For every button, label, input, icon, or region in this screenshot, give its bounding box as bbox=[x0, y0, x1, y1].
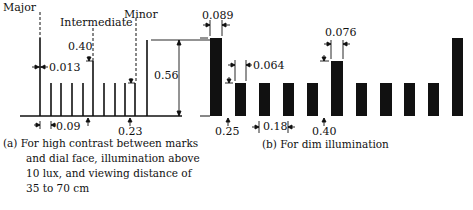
dim-minor-width-b: 0.064 bbox=[253, 60, 285, 72]
dim-minor-spacing-b: 0.18 bbox=[263, 121, 288, 133]
label-intermediate: Intermediate bbox=[60, 17, 133, 29]
dim-major-height-a: 0.56 bbox=[154, 70, 179, 82]
label-minor: Minor bbox=[124, 9, 158, 21]
dim-major-width-b: 0.089 bbox=[202, 10, 234, 22]
dim-minor-spacing-a: 0.09 bbox=[56, 121, 81, 133]
dim-intermediate-width-b: 0.076 bbox=[325, 27, 357, 39]
dim-minor-height-b: 0.25 bbox=[215, 126, 240, 138]
dim-intermediate-height-a: 0.40 bbox=[68, 41, 93, 53]
major-bar bbox=[210, 38, 222, 116]
intermediate-bar bbox=[331, 61, 343, 116]
caption-a: (a) For high contrast between marks and … bbox=[3, 136, 200, 196]
panel-b-bars bbox=[200, 38, 463, 116]
major-bar-2 bbox=[452, 38, 463, 116]
dim-mark-width-a: 0.013 bbox=[49, 62, 81, 74]
caption-b: (b) For dim illumination bbox=[262, 137, 389, 152]
label-major: Major bbox=[3, 2, 36, 14]
